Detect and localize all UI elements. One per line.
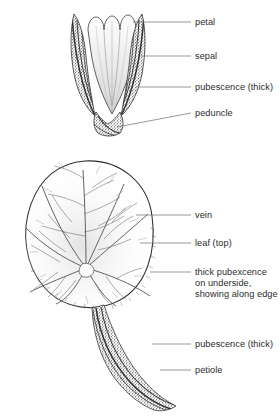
illustration-canvas [0,0,280,417]
leaf-drawing [26,161,176,411]
label-leaf-top: leaf (top) [195,238,232,249]
label-peduncle: peduncle [195,108,233,119]
label-petal: petal [195,17,215,28]
label-pubescence-flower: pubescence (thick) [195,82,273,93]
peduncle-shape [94,112,123,136]
leader-peduncle [117,113,191,127]
label-vein: vein [195,210,212,221]
label-underside-pubescence: thick pubexcence on underside, showing a… [195,267,278,301]
label-sepal: sepal [195,51,217,62]
leaf-vein-hub [79,263,94,277]
label-pubescence-petiole: pubescence (thick) [195,339,273,350]
flower-bud-drawing [71,14,145,136]
botanical-figure: petal sepal pubescence (thick) peduncle … [0,0,280,417]
petiole-shape [92,305,176,411]
label-petiole: petiole [195,365,222,376]
